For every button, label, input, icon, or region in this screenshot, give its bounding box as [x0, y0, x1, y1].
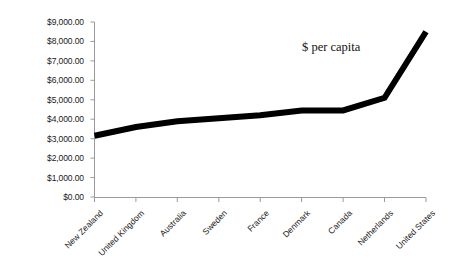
y-axis-ticks: [91, 22, 95, 197]
chart-container: $9,000.00 $8,000.00 $7,000.00 $6,000.00 …: [0, 0, 451, 276]
chart-annotation: $ per capita: [302, 40, 360, 55]
chart-plot-area: [0, 0, 451, 276]
x-axis-ticks: [95, 198, 427, 203]
data-series-line: [95, 32, 427, 136]
